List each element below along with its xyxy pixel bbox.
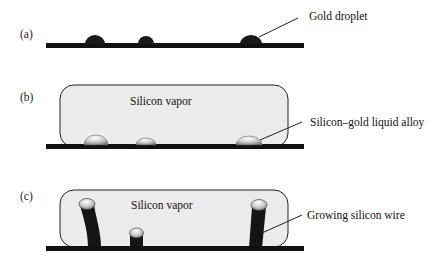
panel-label-c: (c) xyxy=(20,190,33,203)
panel-b: (b) Silicon vapor Silicon–gold liquid al… xyxy=(20,85,425,149)
vls-growth-diagram: (a) Gold droplet (b) Silicon vapor Silic… xyxy=(0,0,433,261)
annotation-gold-droplet: Gold droplet xyxy=(309,10,368,23)
annotation-growing-wire: Growing silicon wire xyxy=(307,209,405,222)
substrate xyxy=(46,246,304,251)
alloy-cap xyxy=(130,228,144,238)
vapor-label: Silicon vapor xyxy=(131,199,193,212)
alloy-cap xyxy=(79,199,95,210)
vapor-label: Silicon vapor xyxy=(130,95,192,108)
leader-line xyxy=(259,18,298,37)
gold-droplet xyxy=(240,35,262,44)
substrate xyxy=(46,43,304,48)
panel-label-b: (b) xyxy=(20,91,34,104)
alloy-cap xyxy=(251,200,267,211)
panel-a: (a) Gold droplet xyxy=(20,10,368,48)
panel-c: (c) Silicon vapor Growing silicon wire xyxy=(20,190,405,251)
gold-droplet xyxy=(85,35,105,44)
annotation-alloy: Silicon–gold liquid alloy xyxy=(310,116,425,129)
panel-label-a: (a) xyxy=(20,28,33,41)
gold-droplet xyxy=(138,36,154,44)
